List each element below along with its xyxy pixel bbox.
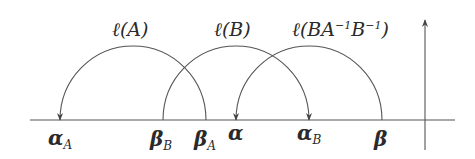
arc-label-c-sup1: −1: [335, 19, 351, 32]
arc-label-l-B: ℓ(B): [214, 18, 251, 40]
arc-label-l-commutator: ℓ(BA−1B−1): [292, 18, 389, 40]
geodesic-arc-l-A: [60, 46, 206, 120]
hyperbolic-geodesics-diagram: ℓ(A) ℓ(B) ℓ(BA−1B−1) αA βB βA α αB β: [0, 0, 475, 159]
point-label-beta-B: βB: [149, 127, 172, 153]
point-label-beta: β: [373, 127, 387, 151]
arc-label-c-part3: ): [380, 18, 388, 40]
point-label-alpha-B: αB: [297, 121, 321, 147]
geodesic-arc-l-B: [163, 46, 309, 120]
geodesic-arc-l-commutator: [236, 46, 382, 120]
arc-label-l-A: ℓ(A): [112, 18, 148, 40]
point-label-alpha-A: αA: [48, 126, 72, 152]
arc-label-c-sup2: −1: [365, 19, 381, 32]
point-label-beta-A: βA: [193, 127, 216, 153]
point-label-alpha: α: [228, 121, 243, 145]
arc-label-c-part1: ℓ(BA: [292, 18, 335, 40]
arc-label-c-part2: B: [350, 18, 365, 40]
